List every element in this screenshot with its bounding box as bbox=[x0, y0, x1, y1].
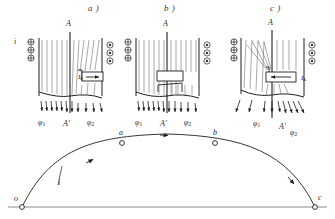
cross-in-circle-icon-b bbox=[125, 39, 131, 61]
flux-left-label-a: φ1 bbox=[38, 118, 45, 127]
dot-in-circle-icon-c bbox=[309, 42, 315, 64]
waveform-arrow-3 bbox=[288, 177, 294, 184]
waveform-current-label: i bbox=[58, 178, 60, 187]
cross-in-circle-icon-c bbox=[231, 39, 237, 61]
flux-left-label-c: φ1 bbox=[253, 119, 260, 128]
waveform-point-o bbox=[20, 205, 25, 210]
axis-bottom-label-a: A' bbox=[63, 119, 70, 128]
coil-current-label-a: Iк bbox=[78, 73, 83, 81]
coil-box-c bbox=[266, 67, 296, 82]
flux-arrows-a bbox=[41, 101, 102, 112]
dot-in-circle-icon-b bbox=[204, 42, 210, 64]
axis-top-label-c: A bbox=[268, 18, 273, 27]
flux-lines-left-a bbox=[42, 40, 67, 95]
waveform-label-b: b bbox=[213, 128, 217, 137]
waveform-arrow-1 bbox=[86, 160, 93, 164]
waveform-label-o: o bbox=[14, 194, 18, 203]
flux-right-label-a: φ2 bbox=[87, 118, 94, 127]
dot-in-circle-icon-a bbox=[107, 42, 113, 64]
waveform-label-a: a bbox=[119, 128, 123, 137]
waveform-curve bbox=[22, 134, 315, 207]
waveform-point-b bbox=[213, 141, 218, 146]
flux-lines-right-b bbox=[171, 40, 196, 95]
waveform-point-a bbox=[120, 141, 125, 146]
flux-lines-right-a bbox=[72, 40, 99, 95]
coil-box-b bbox=[157, 71, 183, 92]
diagram-canvas bbox=[0, 0, 335, 219]
figure-root: a ) b ) c ) bbox=[0, 0, 335, 219]
panel-b bbox=[125, 32, 210, 113]
waveform-point-c bbox=[313, 205, 318, 210]
flux-lines-left-b bbox=[139, 40, 164, 95]
axis-top-label-b: A bbox=[163, 19, 168, 28]
axis-top-label-a: A bbox=[66, 19, 71, 28]
waveform-label-c: c bbox=[318, 193, 322, 202]
flux-lines-left-c bbox=[244, 40, 271, 92]
axis-bottom-label-c: A' bbox=[279, 122, 286, 131]
flux-left-label-b: φ1 bbox=[135, 118, 142, 127]
axis-bottom-label-b: A' bbox=[160, 119, 167, 128]
panel-a bbox=[28, 32, 113, 113]
coil-current-label-c: Iк bbox=[301, 74, 306, 82]
flux-arrows-c bbox=[236, 100, 304, 113]
flux-right-label-c: φ2 bbox=[290, 128, 297, 137]
flux-right-label-b: φ2 bbox=[184, 118, 191, 127]
current-waveform bbox=[8, 134, 327, 209]
current-label-a: i bbox=[14, 37, 16, 46]
cross-in-circle-icon-a bbox=[28, 39, 34, 61]
